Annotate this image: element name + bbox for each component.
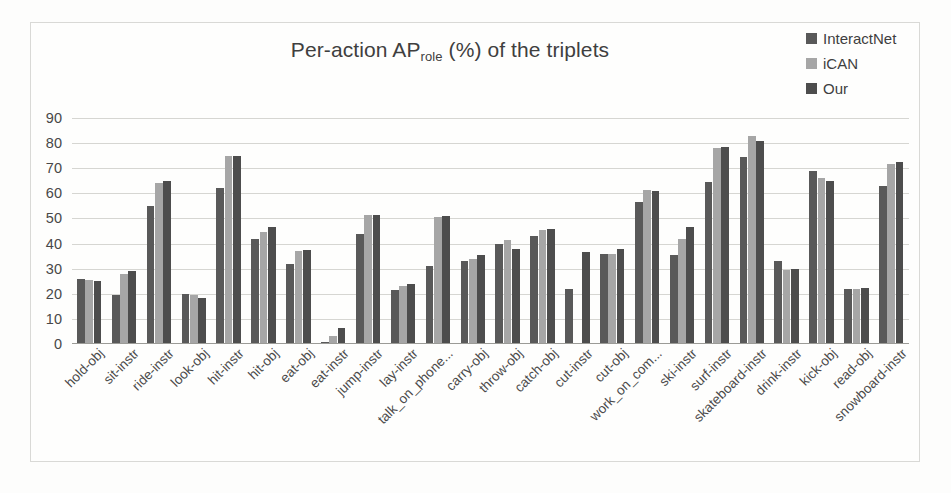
bar	[740, 157, 748, 344]
chart-legend: InteractNetiCANOur	[806, 26, 926, 101]
y-tick-label: 80	[22, 135, 62, 151]
bar-group	[177, 118, 212, 344]
bar-group	[839, 118, 874, 344]
bar-group	[107, 118, 142, 344]
bar-group	[421, 118, 456, 344]
bar	[225, 156, 233, 344]
bar	[748, 136, 756, 344]
bar-group	[525, 118, 560, 344]
y-tick-label: 70	[22, 160, 62, 176]
y-tick-label: 60	[22, 185, 62, 201]
legend-swatch-icon	[806, 58, 817, 69]
legend-label: Our	[823, 80, 848, 97]
bar	[879, 186, 887, 344]
legend-swatch-icon	[806, 83, 817, 94]
bar-group	[595, 118, 630, 344]
bar-group	[281, 118, 316, 344]
legend-item-interactnet[interactable]: InteractNet	[806, 26, 926, 51]
bar-group	[874, 118, 909, 344]
y-axis-ticks: 9080706050403020100	[24, 118, 68, 344]
bar	[77, 279, 85, 344]
legend-swatch-icon	[806, 33, 817, 44]
y-tick-label: 90	[22, 110, 62, 126]
legend-label: iCAN	[823, 55, 858, 72]
bar	[233, 156, 241, 344]
chart-figure: Per-action AProle (%) of the triplets In…	[0, 0, 951, 493]
bar-group	[560, 118, 595, 344]
y-tick-label: 0	[22, 336, 62, 352]
legend-item-ican[interactable]: iCAN	[806, 51, 926, 76]
bar-group	[72, 118, 107, 344]
chart-title-tail: (%) of the triplets	[443, 38, 610, 61]
bar-group	[142, 118, 177, 344]
bar-group	[246, 118, 281, 344]
y-tick-label: 40	[22, 236, 62, 252]
chart-title-main: Per-action AP	[291, 38, 421, 61]
bar-group	[735, 118, 770, 344]
bar	[163, 181, 171, 344]
bar	[216, 188, 224, 344]
bar-group	[316, 118, 351, 344]
y-tick-label: 10	[22, 311, 62, 327]
bar-group	[351, 118, 386, 344]
bar	[85, 280, 93, 344]
y-tick-label: 30	[22, 261, 62, 277]
bar	[861, 288, 869, 345]
chart-title-subscript: role	[421, 49, 443, 64]
bar	[721, 147, 729, 344]
y-tick-label: 50	[22, 210, 62, 226]
bar	[705, 182, 713, 344]
bar	[713, 148, 721, 344]
bar	[303, 250, 311, 344]
bar	[652, 191, 660, 344]
bar	[94, 281, 102, 344]
bar-group	[212, 118, 247, 344]
x-axis-labels: hold-objsit-instrride-instrlook-objhit-i…	[72, 344, 909, 464]
bar	[809, 171, 817, 344]
legend-item-our[interactable]: Our	[806, 76, 926, 101]
legend-label: InteractNet	[823, 30, 896, 47]
chart-title: Per-action AProle (%) of the triplets	[140, 38, 760, 64]
y-tick-label: 20	[22, 286, 62, 302]
bar-group	[630, 118, 665, 344]
